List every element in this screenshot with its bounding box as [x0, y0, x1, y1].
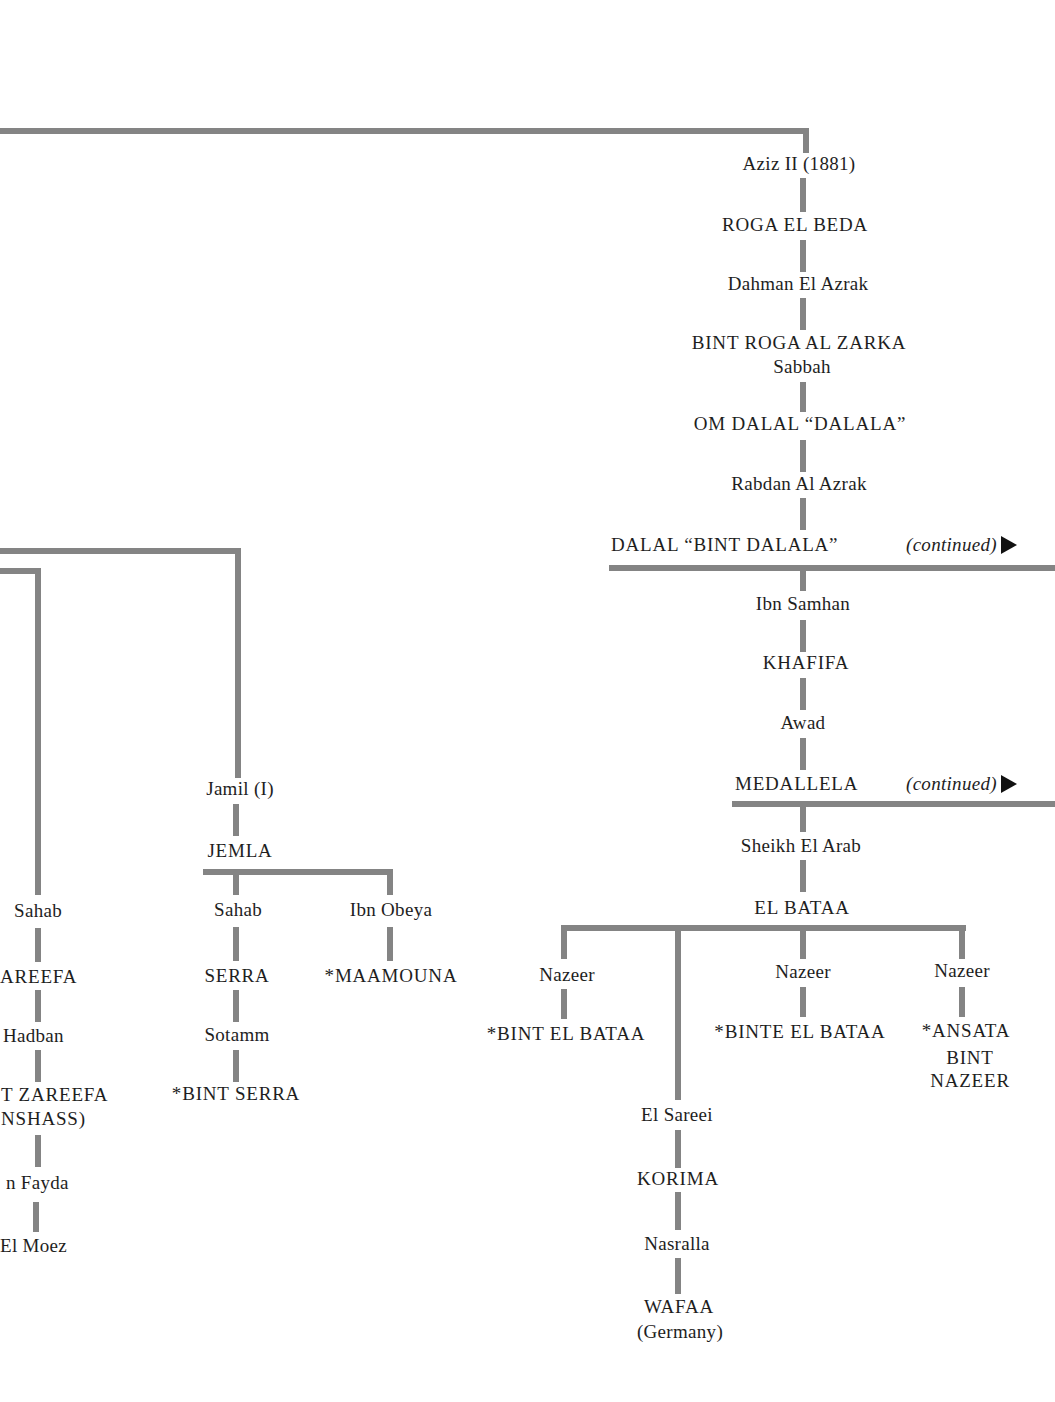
connector-line	[800, 571, 806, 591]
connector-line	[800, 678, 806, 710]
horse-name: Sotamm	[204, 1023, 269, 1047]
mare-name: BINT	[946, 1046, 994, 1070]
horse-name: Sheikh El Arab	[741, 834, 861, 858]
continued-label: (continued)	[906, 773, 997, 794]
mare-name: DALAL “BINT DALALA”	[611, 533, 838, 557]
horse-name: Nazeer	[934, 959, 990, 983]
continued-link[interactable]: (continued)	[906, 533, 1017, 557]
horse-name: Rabdan Al Azrak	[731, 472, 866, 496]
connector-line	[800, 440, 806, 472]
continued-line	[609, 565, 1055, 571]
connector-line	[959, 987, 965, 1017]
mare-name: KHAFIFA	[763, 651, 850, 675]
mare-name: T ZAREEFA	[1, 1083, 108, 1107]
horse-name: Sahab	[214, 898, 262, 922]
mare-name: *MAAMOUNA	[325, 964, 458, 988]
connector-line	[35, 928, 41, 962]
mare-name: NAZEER	[930, 1069, 1010, 1093]
horse-name: Nazeer	[539, 963, 595, 987]
horse-name: Aziz II (1881)	[743, 152, 856, 176]
mare-name: NSHASS)	[1, 1107, 86, 1131]
connector-line	[800, 382, 806, 412]
connector-line	[561, 925, 966, 931]
mare-name: *BINT EL BATAA	[487, 1022, 646, 1046]
mare-name: WAFAA	[644, 1295, 714, 1319]
connector-line	[233, 990, 239, 1022]
connector-line	[959, 925, 965, 959]
horse-name: El Sareei	[641, 1103, 713, 1127]
continued-line	[732, 801, 1055, 807]
mare-name: *BINTE EL BATAA	[714, 1020, 885, 1044]
mare-name: OM DALAL “DALALA”	[694, 412, 906, 436]
mare-name: ROGA EL BEDA	[722, 213, 868, 237]
connector-line	[561, 925, 567, 959]
connector-line	[233, 804, 239, 836]
mare-name: JEMLA	[207, 839, 272, 863]
connector-line	[800, 298, 806, 330]
connector-line	[561, 989, 567, 1019]
connector-line	[800, 925, 806, 959]
connector-line	[800, 860, 806, 892]
country-label: (Germany)	[637, 1320, 723, 1344]
mare-name: KORIMA	[637, 1167, 719, 1191]
mare-name: *ANSATA	[922, 1019, 1011, 1043]
connector-line	[800, 620, 806, 652]
mare-name: *BINT SERRA	[172, 1082, 300, 1106]
continued-link[interactable]: (continued)	[906, 772, 1017, 796]
mare-name: MEDALLELA	[735, 772, 858, 796]
connector-line	[800, 738, 806, 770]
connector-line	[800, 498, 806, 530]
connector-line	[35, 568, 41, 895]
horse-name: n Fayda	[6, 1171, 69, 1195]
connector-line	[33, 1202, 39, 1232]
horse-name: Ibn Samhan	[756, 592, 850, 616]
continued-label: (continued)	[906, 534, 997, 555]
horse-name: Sabbah	[773, 355, 831, 379]
connector-line	[800, 178, 806, 212]
connector-line	[675, 1192, 681, 1230]
mare-name: AREEFA	[0, 965, 77, 989]
connector-line	[800, 987, 806, 1017]
connector-line	[387, 869, 393, 895]
horse-name: Awad	[781, 711, 826, 735]
connector-line	[387, 927, 393, 961]
connector-line	[803, 128, 809, 153]
connector-line	[675, 925, 681, 1100]
right-arrow-icon	[1001, 536, 1017, 554]
connector-line	[0, 548, 241, 554]
connector-line	[235, 548, 241, 778]
connector-line	[233, 869, 239, 895]
horse-name: Sahab	[14, 899, 62, 923]
right-arrow-icon	[1001, 775, 1017, 793]
connector-line	[233, 1050, 239, 1082]
connector-line	[35, 1135, 41, 1167]
horse-name: El Moez	[0, 1234, 67, 1258]
horse-name: Jamil (I)	[206, 777, 274, 801]
connector-line	[35, 990, 41, 1022]
mare-name: EL BATAA	[754, 896, 849, 920]
horse-name: Nazeer	[775, 960, 831, 984]
connector-line	[233, 927, 239, 961]
horse-name: Hadban	[3, 1024, 64, 1048]
horse-name: Nasralla	[644, 1232, 710, 1256]
connector-line	[35, 1050, 41, 1082]
connector-line	[675, 1130, 681, 1168]
connector-line	[800, 807, 806, 832]
connector-line	[0, 128, 809, 134]
connector-line	[675, 1258, 681, 1294]
connector-line	[800, 240, 806, 272]
mare-name: SERRA	[204, 964, 269, 988]
horse-name: Dahman El Azrak	[728, 272, 869, 296]
mare-name: BINT ROGA AL ZARKA	[692, 331, 906, 355]
connector-line	[203, 869, 393, 875]
horse-name: Ibn Obeya	[350, 898, 432, 922]
